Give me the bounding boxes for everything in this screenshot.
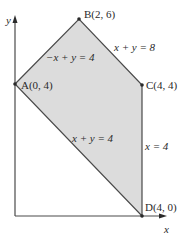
vertex-b-label: B(2, 6) — [84, 8, 116, 21]
feasible-region-diagram: y x A(0, 4) B(2, 6) C(4, 4) D(4, 0) −x +… — [0, 0, 188, 238]
vertex-d-dot — [140, 214, 144, 218]
constraint-cd-label: x = 4 — [144, 140, 169, 152]
diagram-canvas: y x A(0, 4) B(2, 6) C(4, 4) D(4, 0) −x +… — [0, 0, 188, 238]
constraint-ab-label: −x + y = 4 — [46, 51, 95, 63]
y-axis-label: y — [5, 14, 11, 26]
vertex-d-label: D(4, 0) — [145, 201, 177, 214]
vertex-c-dot — [140, 83, 144, 87]
y-axis-arrow-icon — [13, 15, 18, 23]
constraint-ad-label: x + y = 4 — [71, 132, 114, 144]
x-axis-label: x — [163, 223, 169, 235]
constraint-bc-label: x + y = 8 — [113, 41, 156, 53]
x-axis-arrow-icon — [159, 214, 167, 219]
vertex-a-label: A(0, 4) — [21, 79, 53, 92]
vertex-a-dot — [13, 82, 17, 86]
vertex-b-dot — [77, 17, 81, 21]
vertex-c-label: C(4, 4) — [146, 79, 178, 92]
